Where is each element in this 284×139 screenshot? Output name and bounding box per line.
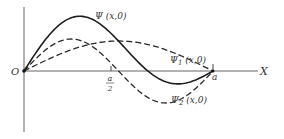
wavefunction-diagram: O X a 2 a Ψ (x,0) Ψ1 (x,0) Ψ2 (x,0) bbox=[0, 0, 284, 139]
tick-half-a-numerator: a bbox=[108, 74, 113, 83]
psi-label: Ψ (x,0) bbox=[95, 11, 127, 21]
origin-label: O bbox=[11, 66, 19, 77]
x-axis-label: X bbox=[259, 65, 269, 78]
psi-sum-curve bbox=[24, 16, 213, 84]
psi1-label: Ψ1 (x,0) bbox=[170, 55, 206, 67]
tick-a-label: a bbox=[212, 72, 217, 82]
tick-half-a-denominator: 2 bbox=[107, 84, 113, 93]
psi2-label: Ψ2 (x,0) bbox=[171, 95, 207, 107]
origin-point bbox=[22, 69, 26, 73]
